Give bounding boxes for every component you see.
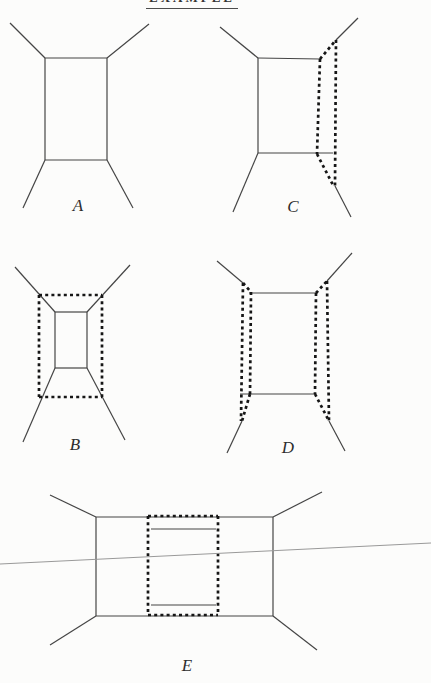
dashed-line (315, 293, 316, 394)
solid-line (23, 160, 45, 208)
solid-line (23, 368, 55, 442)
solid-line (233, 153, 258, 212)
figure-d-label: D (281, 438, 295, 457)
figure-e: E (50, 492, 322, 675)
figure-e-label: E (181, 656, 193, 675)
dashed-line (242, 394, 250, 421)
figure-d: D (217, 253, 352, 457)
dashed-line (317, 154, 334, 187)
solid-line (327, 253, 352, 281)
solid-line (273, 616, 317, 650)
solid-line (217, 261, 243, 283)
diagram-canvas: A C B D E (0, 0, 431, 683)
dashed-line (316, 281, 327, 293)
solid-line (107, 24, 149, 58)
solid-line (87, 265, 130, 312)
dashed-line (327, 281, 329, 421)
figure-a: A (10, 23, 149, 215)
solid-line (15, 267, 55, 312)
solid-line (273, 492, 322, 517)
solid-line (336, 18, 358, 40)
dashed-line (335, 40, 336, 186)
dashed-line (320, 40, 336, 59)
solid-line (87, 368, 125, 440)
horizon-line (0, 543, 431, 564)
dashed-line (241, 283, 243, 421)
solid-line (335, 186, 351, 217)
figure-b-label: B (70, 435, 81, 454)
figure-c: C (220, 18, 358, 217)
solid-line (258, 58, 320, 59)
dashed-line (317, 59, 320, 154)
solid-line (220, 27, 258, 58)
solid-line (227, 421, 242, 453)
figure-b: B (15, 265, 130, 454)
figure-a-label: A (72, 196, 84, 215)
solid-line (107, 160, 133, 208)
dashed-line (250, 292, 251, 394)
dashed-line (315, 394, 329, 421)
figure-c-label: C (287, 197, 299, 216)
page: EXAMPLE A C B D E (0, 0, 431, 683)
solid-line (50, 495, 96, 517)
solid-line (329, 421, 345, 451)
solid-line (10, 23, 45, 58)
solid-line (50, 616, 96, 645)
